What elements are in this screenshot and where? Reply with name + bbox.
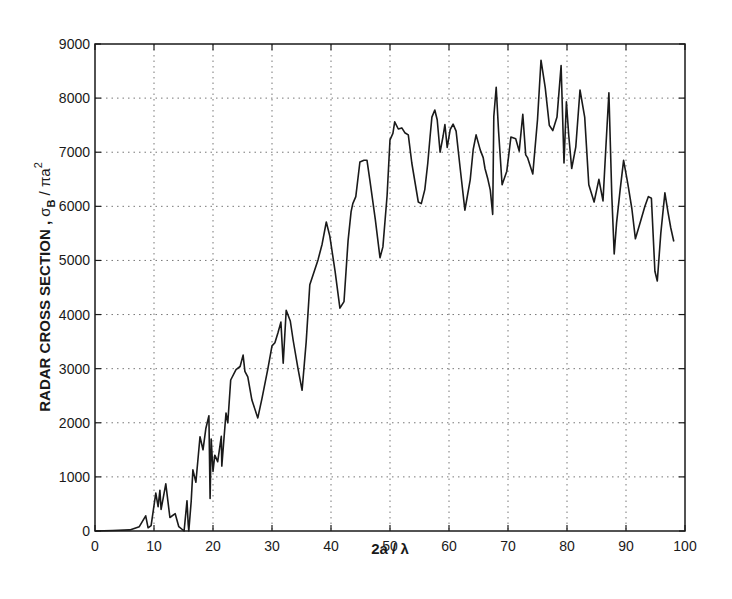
x-tick-label: 70 bbox=[500, 538, 516, 554]
chart-background bbox=[0, 0, 732, 599]
x-tick-label: 100 bbox=[673, 538, 697, 554]
x-tick-label: 90 bbox=[618, 538, 634, 554]
y-tick-label: 7000 bbox=[59, 144, 90, 160]
y-tick-label: 1000 bbox=[59, 469, 90, 485]
y-axis-title-slash: / bbox=[36, 187, 53, 200]
y-tick-label: 8000 bbox=[59, 90, 90, 106]
x-tick-label: 0 bbox=[91, 538, 99, 554]
y-tick-label: 2000 bbox=[59, 415, 90, 431]
y-tick-label: 5000 bbox=[59, 252, 90, 268]
x-tick-label: 40 bbox=[323, 538, 339, 554]
y-tick-label: 0 bbox=[82, 523, 90, 539]
y-axis-title-main: RADAR CROSS SECTION , bbox=[36, 217, 53, 412]
x-tick-label: 80 bbox=[559, 538, 575, 554]
x-axis-title: 2a / λ bbox=[371, 540, 409, 557]
y-axis-title-pi: π bbox=[36, 177, 53, 187]
x-tick-label: 60 bbox=[441, 538, 457, 554]
y-tick-label: 4000 bbox=[59, 307, 90, 323]
chart: 0102030405060708090100 01000200030004000… bbox=[0, 0, 732, 599]
x-tick-label: 20 bbox=[205, 538, 221, 554]
y-tick-label: 3000 bbox=[59, 361, 90, 377]
y-axis-title-sub: B bbox=[45, 200, 57, 208]
y-tick-label: 6000 bbox=[59, 198, 90, 214]
y-axis-title-sup: 2 bbox=[32, 162, 44, 168]
x-tick-label: 10 bbox=[146, 538, 162, 554]
y-tick-label: 9000 bbox=[59, 36, 90, 52]
x-tick-label: 30 bbox=[264, 538, 280, 554]
